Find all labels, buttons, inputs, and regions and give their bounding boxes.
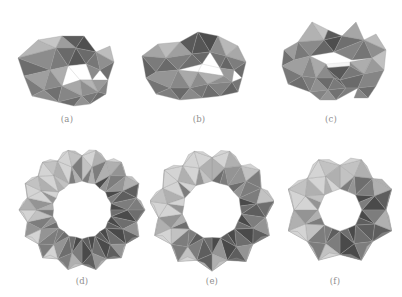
panel-e-illustration — [150, 150, 274, 272]
panel-a-illustration — [10, 14, 130, 112]
panel-b-illustration — [140, 14, 262, 112]
panel-d — [18, 148, 146, 274]
panel-d-caption: (d) — [62, 276, 102, 286]
panel-f — [288, 154, 392, 268]
panel-c — [276, 8, 396, 112]
panel-a-caption: (a) — [47, 114, 87, 124]
panel-c-illustration — [276, 8, 396, 112]
panel-e — [150, 150, 274, 272]
panel-a — [10, 14, 130, 112]
panel-b — [140, 14, 262, 112]
panel-b-caption: (b) — [179, 114, 219, 124]
panel-c-caption: (c) — [311, 114, 351, 124]
figure-root: (a) — [0, 0, 402, 297]
panel-e-caption: (e) — [192, 276, 232, 286]
panel-d-illustration — [18, 148, 146, 274]
panel-f-illustration — [288, 154, 392, 268]
panel-f-caption: (f) — [315, 276, 355, 286]
